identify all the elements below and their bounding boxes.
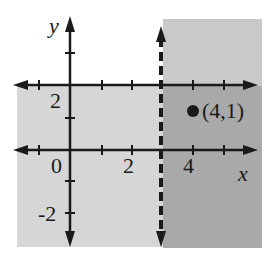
- y-axis-up-arrow-icon: [65, 16, 75, 32]
- x-axis-label: x: [237, 161, 248, 186]
- shade-right-x3-upper: [163, 19, 262, 86]
- point-4-1: [187, 105, 199, 117]
- point-label: (4,1): [202, 98, 244, 123]
- inequality-graph: y x 0 2 4 2 -2 (4,1): [0, 0, 280, 259]
- x-tick-label-2: 2: [123, 153, 134, 178]
- y-tick-label-2: 2: [50, 88, 61, 113]
- x-tick-label-4: 4: [183, 153, 194, 178]
- y-axis-label: y: [47, 13, 59, 38]
- origin-label: 0: [51, 153, 62, 178]
- y-tick-label-neg2: -2: [38, 201, 56, 226]
